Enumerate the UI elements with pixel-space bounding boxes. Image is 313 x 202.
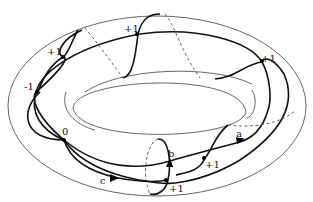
- curve-wave-lower: [176, 125, 228, 175]
- curve-wave-right: [215, 62, 262, 79]
- curve-wave-left-2: [38, 30, 78, 92]
- label-curve-c: c: [100, 175, 106, 186]
- torus-diagram: +1 -1 +1 +1 0 a b c +1 +1: [0, 0, 313, 202]
- label-sign-lower-b: +1: [169, 183, 184, 194]
- label-curve-b: b: [168, 148, 174, 159]
- intersection-dot-lower-b: [164, 178, 168, 182]
- curve-zero-branch: [64, 140, 168, 181]
- label-curve-a: a: [236, 128, 242, 139]
- curve-wave-top-hidden-2: [165, 14, 200, 78]
- label-sign-zero: 0: [62, 126, 68, 137]
- torus-hole-lower-rim: [73, 83, 246, 134]
- torus-hole-upper-lip-right: [247, 90, 255, 118]
- curve-wave-top-hidden: [85, 28, 123, 78]
- label-sign-top: +1: [124, 23, 139, 34]
- label-sign-left: -1: [24, 81, 34, 92]
- label-sign-upper-left: +1: [47, 46, 62, 57]
- intersection-dot-left: [35, 90, 39, 94]
- torus-inner-top-rim: [85, 71, 252, 92]
- intersection-dot-zero: [62, 138, 66, 142]
- torus-outer-outline: [8, 16, 306, 196]
- label-sign-right: +1: [261, 53, 276, 64]
- label-sign-lower-a: +1: [205, 159, 220, 170]
- curve-b-meridian-hidden: [146, 139, 159, 194]
